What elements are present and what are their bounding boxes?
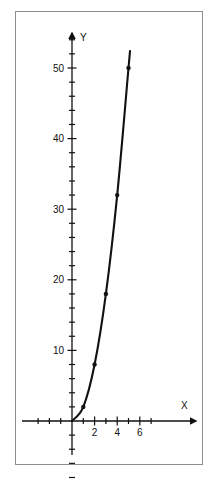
y-tick-label: 20 <box>53 274 65 285</box>
x-tick-label: 4 <box>114 427 120 438</box>
y-tick-label: 40 <box>53 133 65 144</box>
data-point-marker <box>104 292 108 296</box>
data-curve <box>72 51 130 421</box>
x-tick-label: 2 <box>92 427 98 438</box>
data-point-marker <box>126 66 130 70</box>
x-axis-tick-labels: 246 <box>92 427 143 438</box>
y-tick-label: 30 <box>53 204 65 215</box>
y-tick-label: 10 <box>53 345 65 356</box>
data-point-marker <box>115 193 119 197</box>
chart-figure: 1020304050 Y 246 X <box>0 0 216 487</box>
y-axis-label: Y <box>80 32 87 43</box>
y-axis-tick-labels: 1020304050 <box>53 63 65 356</box>
chart-plot-area: 1020304050 Y 246 X <box>0 0 216 487</box>
y-tick-label: 50 <box>53 63 65 74</box>
data-point-marker <box>92 362 96 366</box>
x-axis: 246 X <box>22 400 191 438</box>
x-tick-label: 6 <box>137 427 143 438</box>
x-axis-label: X <box>181 400 188 411</box>
data-point-marker <box>81 405 85 409</box>
